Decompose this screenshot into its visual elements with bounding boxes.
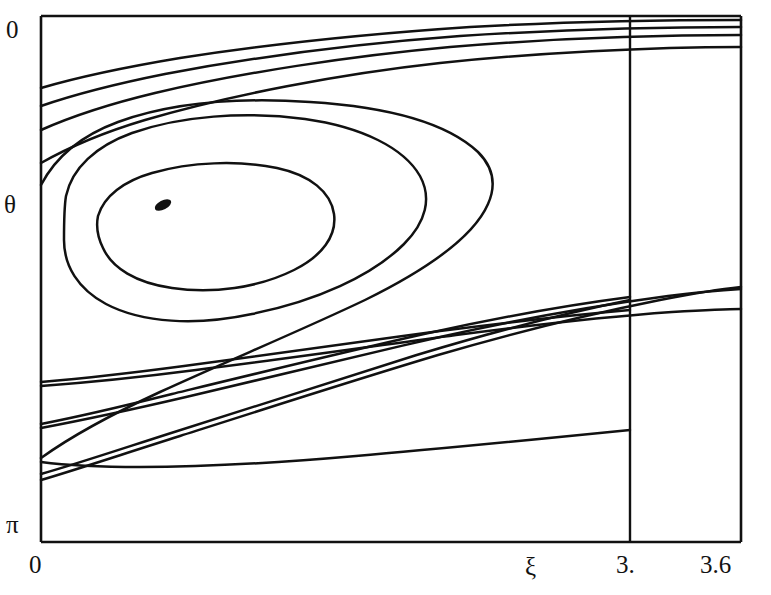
contour-open-lower-4-to-x3 <box>41 430 630 467</box>
figure-canvas: 0 θ π 0 ξ 3. 3.6 <box>0 0 771 595</box>
y-axis-label-pi: π <box>6 511 19 539</box>
contour-closed-orbit-inner <box>97 163 334 290</box>
contour-closed-orbit-outer <box>64 115 426 321</box>
y-axis-label-0: 0 <box>6 16 19 44</box>
x-axis-tick-3: 3. <box>616 551 635 579</box>
contour-open-lower-2b-to-x36 <box>41 289 741 428</box>
contour-plot-svg <box>0 0 771 595</box>
x-axis-tick-3-6: 3.6 <box>700 551 731 579</box>
x-axis-label-0: 0 <box>29 551 42 579</box>
x-axis-label-xi: ξ <box>525 553 536 581</box>
contour-separatrix-outer <box>41 100 493 458</box>
elliptic-fixed-point-marker <box>153 197 173 214</box>
page-scan-artifact <box>0 584 771 595</box>
y-axis-label-theta: θ <box>4 191 16 219</box>
contour-curves <box>41 20 741 480</box>
